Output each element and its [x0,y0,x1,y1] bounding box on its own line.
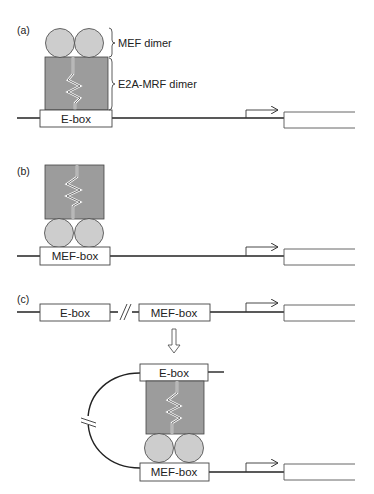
mef-box: MEF-box [140,463,209,481]
mef-dimer [145,434,204,463]
e2a-mrf-dimer [45,165,104,219]
dna-break-icon [118,304,132,320]
transcription-start-arrow-icon [246,110,278,118]
myogenic-transcription-diagram: (a) E-box MEF dimer E2A-MRF dimer [0,0,374,494]
panel-b: (b) MEF-box [17,165,355,265]
panel-c: (c) E-box MEF-box [17,293,355,481]
svg-text:MEF-box: MEF-box [151,466,198,478]
svg-text:MEF-box: MEF-box [151,307,198,319]
transcription-start-arrow-icon [246,463,278,472]
svg-text:E-box: E-box [159,367,189,379]
mef-dimer [45,219,104,248]
mef-box: MEF-box [40,247,110,265]
down-arrow-icon [168,329,180,353]
e2a-mrf-dimer [45,57,108,110]
mef-dimer-label: MEF dimer [118,37,172,49]
transcription-start-arrow-icon [246,247,278,256]
panel-c-label: (c) [17,293,29,305]
gene-box [284,112,355,128]
svg-text:E-box: E-box [60,307,90,319]
panel-b-label: (b) [17,165,30,177]
gene-box [284,305,355,321]
transcription-start-arrow-icon [246,303,278,312]
mef-box: MEF-box [139,304,210,321]
e2a-mrf-dimer-label: E2A-MRF dimer [118,78,197,90]
e-box: E-box [40,110,112,127]
gene-box [284,249,355,265]
brace-icon [109,28,115,57]
mef-dimer [46,29,104,58]
svg-text:E-box: E-box [61,113,91,125]
e-box: E-box [140,364,208,381]
brace-icon [109,58,115,110]
svg-text:MEF-box: MEF-box [52,250,99,262]
gene-box [284,464,355,480]
e-box: E-box [40,304,110,321]
e2a-mrf-dimer [146,381,204,434]
panel-a-label: (a) [17,24,30,36]
panel-a: (a) E-box MEF dimer E2A-MRF dimer [17,24,355,128]
